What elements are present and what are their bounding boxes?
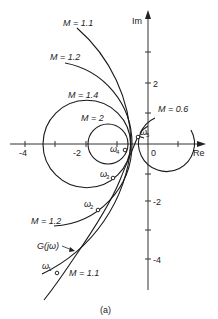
frequency-markers [55,135,140,275]
x-axis-label: Re [193,148,205,158]
m-0-6-label: M = 0.6 [158,104,188,114]
m-circle-diagram: -4 -2 0 Re 2 -2 -4 Im ω 1 ω [0,0,218,319]
m-2-label: M = 2 [81,113,104,123]
omega-4-marker [123,148,127,152]
x-tick-label: -4 [19,148,27,158]
y-tick-label: 2 [153,79,158,89]
omega-3-marker [111,176,115,180]
m-1-2-label: M = 1.2 [50,52,80,62]
y-axis-label: Im [132,16,142,26]
y-tick-label: -2 [153,197,161,207]
m-1-2-lower-label: M = 1.2 [31,216,61,226]
m-circle-1-2-lower [54,144,132,226]
m-circle-1-2-upper [65,63,132,144]
figure-caption: (a) [100,305,111,315]
nyquist-label-group: G(jω) [37,241,75,252]
m-circle-1-1-upper [77,28,131,144]
m-circle-1-1-lower [42,144,131,274]
omega-3-sub: 3 [106,174,110,180]
omega-2-marker [96,208,100,212]
y-tick-label: -4 [153,255,161,265]
imag-axis-arrow-icon [145,10,151,19]
omega-1-marker [55,271,59,275]
omega-2-sub: 2 [90,204,94,210]
leader-arrow-icon [69,247,75,252]
m-1-1-lower-label: M = 1.1 [69,268,99,278]
omega-5-sub: 5 [146,132,150,138]
x-tick-label: -2 [73,148,81,158]
omega-4-sub: 4 [116,149,120,155]
nyquist-curve-label: G(jω) [37,241,59,251]
real-axis-arrow-icon [197,141,206,147]
m-1-1-label: M = 1.1 [63,18,93,28]
x-tick-label: 0 [151,148,156,158]
m-1-4-label: M = 1.4 [68,90,98,100]
